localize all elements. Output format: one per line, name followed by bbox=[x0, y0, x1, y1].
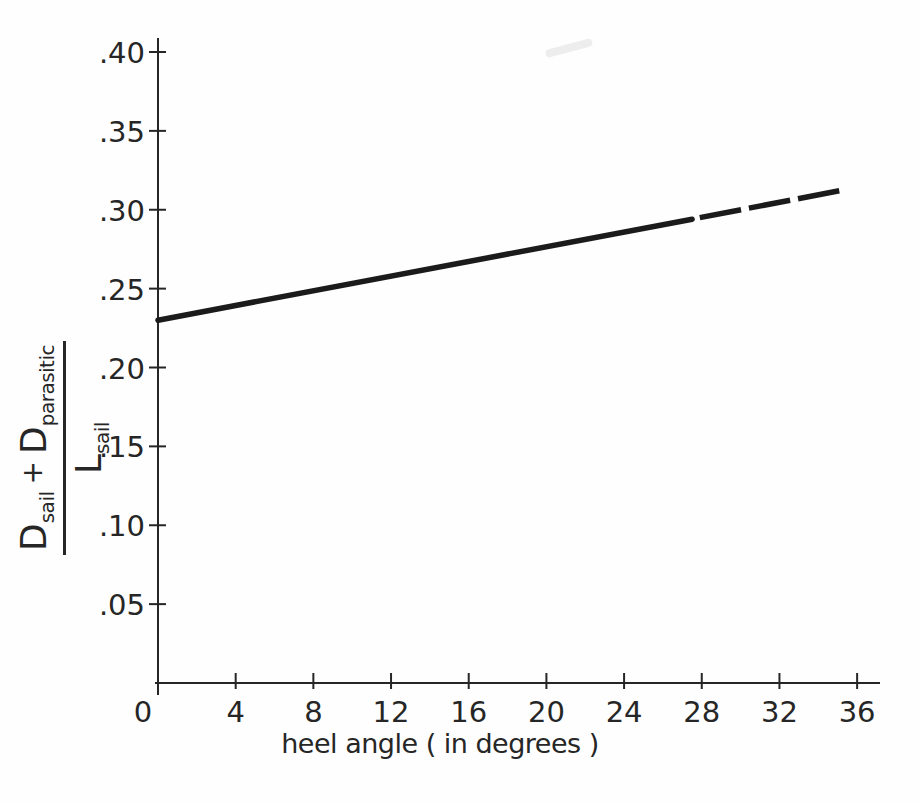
x-tick-label: 28 bbox=[683, 695, 720, 729]
y-tick-label: .25 bbox=[99, 273, 145, 307]
y-axis-label: Dsail+Dparasitic Lsail bbox=[14, 338, 114, 558]
y-tick-label: .40 bbox=[99, 36, 145, 70]
y-tick-label: .05 bbox=[99, 588, 145, 622]
fraction-numerator: Dsail+Dparasitic bbox=[16, 341, 66, 555]
series-line-solid bbox=[158, 219, 692, 320]
x-tick-label: 20 bbox=[528, 695, 565, 729]
fraction-denominator: Lsail bbox=[66, 341, 112, 555]
denominator-base: L bbox=[68, 454, 109, 474]
numerator-term1-base: D bbox=[13, 523, 54, 551]
x-tick-label: 8 bbox=[304, 695, 322, 729]
numerator-term2-base: D bbox=[13, 426, 54, 454]
plus-operator: + bbox=[16, 454, 49, 491]
x-tick-label: 0 bbox=[134, 695, 152, 729]
chart-plot: .05.10.15.20.25.30.35.400481216202428323… bbox=[0, 0, 921, 803]
x-tick-label: 24 bbox=[606, 695, 643, 729]
x-tick-label: 32 bbox=[761, 695, 798, 729]
numerator-term2-subscript: parasitic bbox=[35, 345, 59, 426]
y-tick-label: .35 bbox=[99, 115, 145, 149]
denominator-subscript: sail bbox=[90, 422, 114, 454]
x-axis-label: heel angle ( in degrees ) bbox=[255, 728, 625, 759]
x-tick-label: 36 bbox=[839, 695, 876, 729]
x-tick-label: 12 bbox=[373, 695, 410, 729]
x-tick-label: 4 bbox=[226, 695, 244, 729]
series-line-dashed bbox=[700, 190, 844, 218]
drag-lift-fraction: Dsail+Dparasitic Lsail bbox=[16, 341, 112, 555]
x-tick-label: 16 bbox=[450, 695, 487, 729]
numerator-term1-subscript: sail bbox=[35, 492, 59, 524]
figure-page: .05.10.15.20.25.30.35.400481216202428323… bbox=[0, 0, 921, 803]
y-tick-label: .30 bbox=[99, 194, 145, 228]
